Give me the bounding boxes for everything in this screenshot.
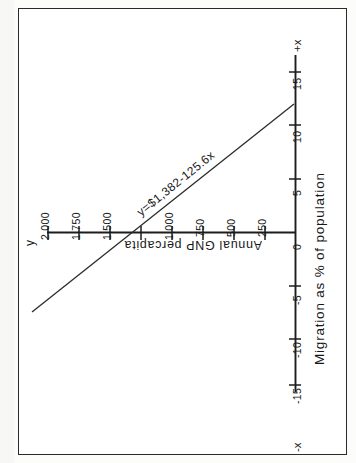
y-axis-title: Annual GNP percapita [124,238,262,252]
x-tick-label-10: 10 [291,131,303,143]
y-tick-label-500: 500 [225,219,237,237]
y-tick-label-1000: 1,000 [163,212,175,240]
y-tick-label-2000: 2,000 [39,212,51,240]
y-tick-label-750: 750 [194,219,206,237]
x-axis-positive-end-label: +x [291,40,303,52]
x-tick-label-0: 0 [291,244,303,250]
y-tick-label-250: 250 [256,219,268,237]
x-tick-label-minus10: -10 [291,342,303,358]
y-axis-letter: y [23,240,37,246]
x-tick-label-minus5: -5 [291,295,303,305]
figure-canvas: y 2,000 1,750 1,500 1,000 750 500 250 15… [0,0,356,463]
x-axis-negative-end-label: -x [291,442,303,452]
x-tick-label-15: 15 [291,78,303,90]
x-axis-title: Migration as % of population [312,172,327,365]
x-tick-label-minus15: -15 [291,388,303,404]
regression-line [32,104,294,312]
y-tick-label-1750: 1,750 [70,212,82,240]
x-tick-label-5: 5 [291,190,303,196]
y-tick-label-1500: 1,500 [101,212,113,240]
